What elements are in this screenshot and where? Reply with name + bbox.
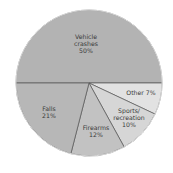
slice-label: Other 7% <box>126 89 155 96</box>
slice-label: Falls21% <box>42 105 56 119</box>
pie-chart: Vehiclecrashes50%Other 7%Sports/recreati… <box>0 0 173 173</box>
